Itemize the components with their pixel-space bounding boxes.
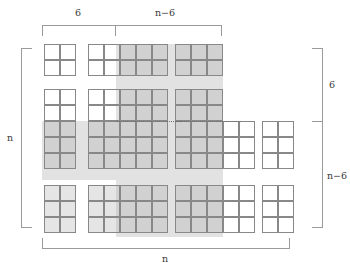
grid-cell [44,60,60,76]
grid-cell [223,153,239,169]
grid-cell [223,185,239,201]
grid-cell [239,153,255,169]
grid-cell [262,185,278,201]
grid-cell [60,201,76,217]
grid-cell [120,217,136,233]
grid-cell [120,137,136,153]
grid-cell [104,201,120,217]
grid-cell [44,137,60,153]
grid-cell [191,153,207,169]
grid-cell [88,44,104,60]
grid-cell [223,217,239,233]
grid-cell [207,185,223,201]
grid-cell [175,105,191,121]
label-top-left: 6 [75,8,81,18]
grid-cell [175,217,191,233]
dotted-line-right [175,121,241,122]
grid-cell [88,89,104,105]
grid-cell [60,89,76,105]
grid-cell [60,185,76,201]
grid-cell [239,137,255,153]
block-matrix-figure: 6 n−6 n 6 n−6 n [0,0,350,263]
grid-cell [60,60,76,76]
grid-cell [104,217,120,233]
grid-cell [207,89,223,105]
grid-cell [152,217,168,233]
grid-cell [239,121,255,137]
label-top-right: n−6 [155,8,175,18]
block-r3-c1 [44,185,76,233]
grid-cell [191,201,207,217]
block-r2-c3 [175,89,223,169]
grid-cell [262,201,278,217]
grid-cell [60,217,76,233]
grid-cell [60,137,76,153]
grid-cell [207,137,223,153]
grid-cell [262,137,278,153]
grid-cell [152,153,168,169]
grid-cell [136,137,152,153]
grid-cell [88,153,104,169]
label-right-top: 6 [329,80,335,90]
dotted-line-left [116,121,182,122]
grid-cell [262,217,278,233]
grid-cell [60,153,76,169]
grid-cell [239,185,255,201]
block-r2-c5 [262,121,294,169]
grid-cell [136,121,152,137]
grid-cell [152,201,168,217]
grid-cell [152,137,168,153]
grid-cell [120,185,136,201]
block-r2-c1 [44,89,76,169]
grid-cell [175,121,191,137]
grid-cell [88,137,104,153]
grid-cell [104,153,120,169]
grid-cell [175,44,191,60]
grid-cell [136,185,152,201]
grid-cell [175,185,191,201]
grid-cell [175,153,191,169]
block-r3-c3 [175,185,255,233]
grid-cell [191,137,207,153]
grid-cell [239,217,255,233]
grid-cell [207,121,223,137]
grid-cell [278,121,294,137]
grid-cell [104,105,120,121]
grid-cell [207,44,223,60]
grid-cell [223,201,239,217]
block-r3-c5 [262,185,294,233]
grid-cell [44,121,60,137]
grid-cell [152,105,168,121]
grid-cell [223,121,239,137]
grid-cell [191,89,207,105]
grid-cell [136,44,152,60]
label-left: n [7,133,13,143]
grid-cell [120,121,136,137]
grid-cell [136,217,152,233]
block-r1-c1 [44,44,76,76]
block-r2-c4 [223,121,255,169]
grid-cell [44,89,60,105]
grid-cell [88,60,104,76]
grid-cell [120,44,136,60]
grid-cell [207,201,223,217]
grid-cell [44,217,60,233]
grid-cell [104,185,120,201]
grid-cell [207,153,223,169]
grid-cell [152,121,168,137]
grid-cell [207,105,223,121]
grid-cell [136,105,152,121]
label-bottom: n [162,254,168,263]
grid-cell [88,201,104,217]
grid-cell [262,153,278,169]
block-r1-c2 [88,44,168,76]
grid-cell [152,185,168,201]
grid-cell [207,217,223,233]
grid-cell [207,60,223,76]
block-r2-c2 [88,89,168,169]
grid-cell [136,89,152,105]
grid-cell [44,153,60,169]
grid-cell [120,60,136,76]
grid-cell [44,201,60,217]
grid-cell [278,153,294,169]
